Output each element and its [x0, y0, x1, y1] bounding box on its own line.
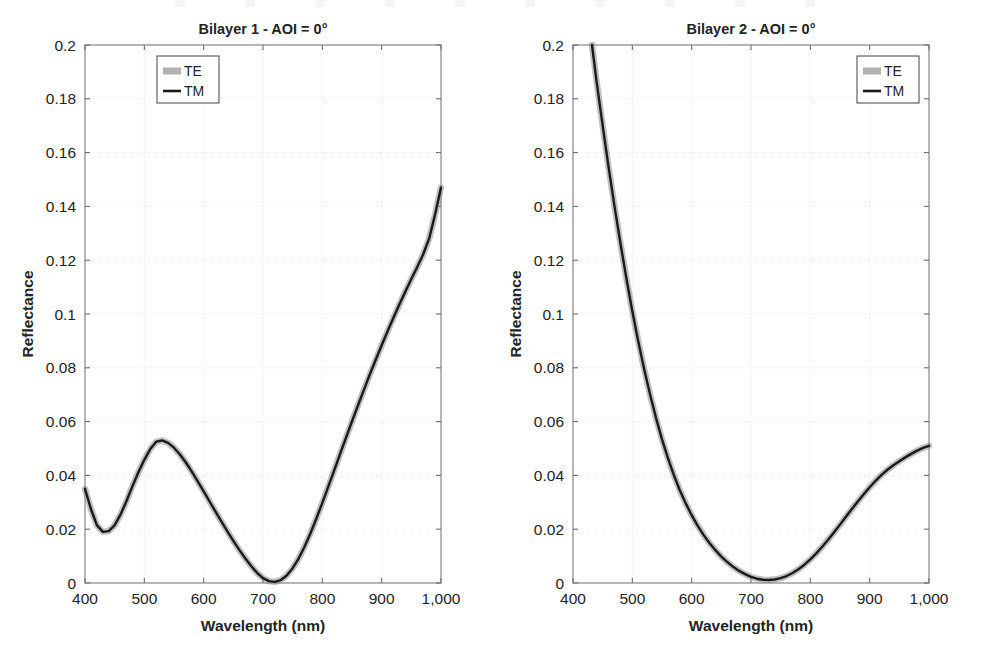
x-axis-tick-label: 500 [619, 590, 645, 607]
x-axis-tick-label: 1,000 [910, 590, 949, 607]
y-axis-tick-label: 0 [67, 575, 76, 592]
y-axis-tick-label: 0.06 [534, 413, 564, 430]
y-axis-tick-label: 0.16 [534, 144, 564, 161]
y-axis-tick-label: 0.04 [46, 467, 77, 484]
y-axis-tick-label: 0.08 [46, 359, 76, 376]
legend[interactable]: TETM [157, 56, 219, 103]
y-axis-title: Reflectance [507, 270, 524, 357]
y-axis-tick-label: 0.08 [534, 359, 564, 376]
x-axis-tick-label: 900 [369, 590, 395, 607]
chart-panel-bilayer-1: 00.020.040.060.080.10.120.140.160.180.24… [0, 0, 496, 653]
legend[interactable]: TETM [857, 56, 919, 103]
y-axis-tick-label: 0.12 [46, 252, 76, 269]
y-axis-tick-label: 0.1 [542, 306, 564, 323]
y-axis-tick-label: 0.02 [46, 521, 76, 538]
y-axis-tick-label: 0.18 [46, 90, 76, 107]
x-axis-tick-label: 700 [738, 590, 764, 607]
x-axis-tick-label: 1,000 [422, 590, 461, 607]
x-axis-tick-label: 900 [857, 590, 883, 607]
data-series-line-te [592, 45, 929, 580]
y-axis-tick-label: 0.2 [542, 37, 564, 54]
data-series-line-tm [592, 45, 929, 580]
y-axis-tick-label: 0.1 [54, 306, 76, 323]
x-axis-tick-label: 500 [131, 590, 157, 607]
data-series-line-te [85, 188, 441, 582]
legend-label-tm: TM [184, 83, 204, 99]
y-axis-tick-label: 0.2 [54, 37, 76, 54]
legend-label-tm: TM [884, 83, 904, 99]
x-axis-title: Wavelength (nm) [689, 617, 813, 634]
chart-panel-bilayer-2: 00.020.040.060.080.10.120.140.160.180.24… [496, 0, 992, 653]
y-axis-tick-label: 0.14 [46, 198, 77, 215]
y-axis-tick-label: 0.06 [46, 413, 76, 430]
x-axis-tick-label: 400 [72, 590, 98, 607]
x-axis-tick-label: 600 [679, 590, 705, 607]
legend-label-te: TE [884, 63, 902, 79]
legend-label-te: TE [184, 63, 202, 79]
y-axis-tick-label: 0.04 [534, 467, 565, 484]
chart-title: Bilayer 2 - AOI = 0° [687, 21, 816, 37]
x-axis-title: Wavelength (nm) [201, 617, 325, 634]
figure-container: 00.020.040.060.080.10.120.140.160.180.24… [0, 0, 993, 653]
x-axis-tick-label: 800 [797, 590, 823, 607]
x-axis-tick-label: 700 [250, 590, 276, 607]
y-axis-tick-label: 0.18 [534, 90, 564, 107]
chart-canvas-bilayer-1: 00.020.040.060.080.10.120.140.160.180.24… [0, 0, 496, 653]
y-axis-tick-label: 0.12 [534, 252, 564, 269]
x-axis-tick-label: 600 [191, 590, 217, 607]
x-axis-tick-label: 800 [309, 590, 335, 607]
chart-title: Bilayer 1 - AOI = 0° [199, 21, 328, 37]
y-axis-tick-label: 0.14 [534, 198, 565, 215]
data-series-line-tm [85, 188, 441, 582]
chart-canvas-bilayer-2: 00.020.040.060.080.10.120.140.160.180.24… [496, 0, 992, 653]
x-axis-tick-label: 400 [560, 590, 586, 607]
y-axis-tick-label: 0 [555, 575, 564, 592]
y-axis-tick-label: 0.16 [46, 144, 76, 161]
y-axis-title: Reflectance [19, 270, 36, 357]
y-axis-tick-label: 0.02 [534, 521, 564, 538]
